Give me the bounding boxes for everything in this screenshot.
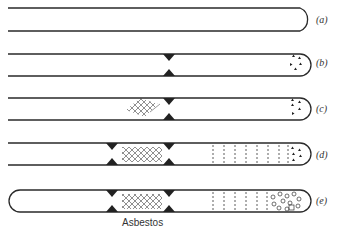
tube-a: (a)	[8, 8, 328, 31]
tube-d: (d)	[8, 143, 328, 165]
constriction-top	[163, 54, 175, 61]
label-c: (c)	[316, 103, 328, 115]
tube-e: (e)	[9, 190, 328, 212]
label-b: (b)	[316, 57, 328, 69]
label-e: (e)	[316, 195, 328, 207]
label-a: (a)	[316, 14, 328, 26]
tube-b: (b)	[8, 54, 328, 76]
asbestos-hatch	[126, 98, 158, 117]
tube-c: (c)	[8, 98, 328, 120]
triangle-particles	[290, 55, 302, 71]
dashed-lines	[213, 145, 288, 163]
label-d: (d)	[316, 149, 328, 161]
constriction-bottom	[163, 69, 175, 76]
diagram-canvas: (a) (b) (c)	[0, 0, 340, 231]
circle-particles	[271, 192, 301, 211]
asbestos-caption: Asbestos	[122, 217, 163, 228]
asbestos-hatch	[122, 147, 162, 162]
asbestos-hatch	[122, 194, 162, 209]
